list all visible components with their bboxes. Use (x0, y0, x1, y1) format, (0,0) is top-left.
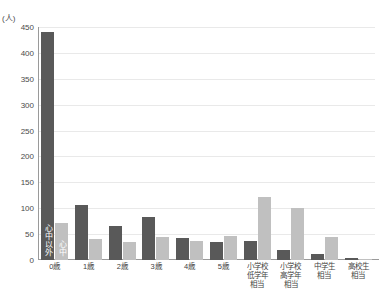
bar (224, 236, 237, 260)
y-axis-tick-label: 100 (0, 204, 34, 213)
plot-area: 450 400 350 300 250 200 150 100 50 0 心中以… (38, 27, 375, 260)
bar (89, 239, 102, 260)
x-axis-tick-label: 小学校 高学年 相当 (274, 262, 308, 289)
y-axis-tick-label: 300 (0, 100, 34, 109)
bar-group (240, 27, 274, 260)
y-axis-tick-label: 200 (0, 152, 34, 161)
bar-group: 心中以外心中 (38, 27, 72, 260)
x-axis-tick-label: 4歳 (173, 262, 207, 289)
bar (258, 197, 271, 260)
bar (109, 226, 122, 260)
y-axis-tick-label: 0 (0, 256, 34, 265)
x-axis-tick-label: 中学生 相当 (308, 262, 342, 289)
y-axis-tick-label: 450 (0, 23, 34, 32)
bar (291, 208, 304, 260)
y-axis-tick-label: 50 (0, 230, 34, 239)
bar (210, 242, 223, 260)
x-axis-labels: 0歳1歳2歳3歳4歳5歳小学校 低学年 相当小学校 高学年 相当中学生 相当高校… (38, 262, 375, 289)
bar (176, 238, 189, 260)
bar (277, 250, 290, 260)
bar-group (274, 27, 308, 260)
bar-chart: (人) 450 400 350 300 250 200 150 100 50 0… (0, 0, 387, 296)
bar-group (207, 27, 241, 260)
bar-group (308, 27, 342, 260)
bar (345, 258, 358, 260)
x-axis-tick-label: 0歳 (38, 262, 72, 289)
x-axis-tick-label: 2歳 (105, 262, 139, 289)
bar (325, 237, 338, 260)
bar: 心中以外 (41, 32, 54, 260)
bar (123, 242, 136, 260)
bar-group (105, 27, 139, 260)
x-axis-tick-label: 小学校 低学年 相当 (240, 262, 274, 289)
bar (190, 241, 203, 260)
y-axis-tick-label: 400 (0, 48, 34, 57)
bar (142, 217, 155, 260)
y-axis-unit-label: (人) (2, 12, 15, 23)
bar-group (341, 27, 375, 260)
x-axis-tick-label: 高校生 相当 (341, 262, 375, 289)
bar-groups: 心中以外心中 (38, 27, 375, 260)
y-axis-tick-label: 150 (0, 178, 34, 187)
bar-group (72, 27, 106, 260)
bar: 心中 (55, 223, 68, 260)
bar (75, 205, 88, 260)
x-axis-tick-label: 5歳 (207, 262, 241, 289)
y-axis-tick-label: 350 (0, 74, 34, 83)
bar-group (139, 27, 173, 260)
bar (244, 241, 257, 260)
x-axis-tick-label: 1歳 (72, 262, 106, 289)
bar-group (173, 27, 207, 260)
y-axis-tick-label: 250 (0, 126, 34, 135)
bar (156, 237, 169, 260)
bar (311, 254, 324, 260)
series-label-murder-suicide: 心中 (57, 240, 66, 256)
bar (359, 259, 372, 260)
series-label-other: 心中以外 (43, 224, 52, 256)
x-axis-tick-label: 3歳 (139, 262, 173, 289)
